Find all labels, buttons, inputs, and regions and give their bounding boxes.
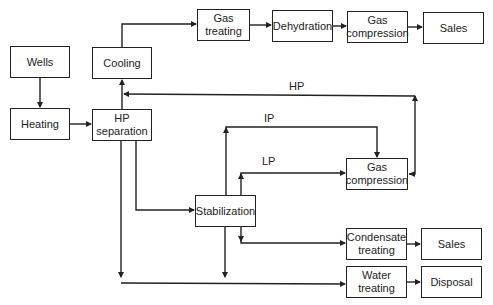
cooling-box: Cooling xyxy=(92,47,152,79)
process-flow-diagram: HP IP LP Wells Heating Cooling HP separa… xyxy=(0,0,493,305)
hp-separation-label-line1: HP xyxy=(114,112,129,125)
water-treating-label-line1: Water xyxy=(362,269,391,282)
hp-separation-label-line2: separation xyxy=(96,125,147,138)
gas-compression-top-box: Gas compression xyxy=(347,11,408,43)
water-treating-label-line2: treating xyxy=(358,282,395,295)
water-treating-box: Water treating xyxy=(346,266,407,298)
disposal-label: Disposal xyxy=(430,276,472,289)
heating-box: Heating xyxy=(10,108,70,140)
lp-line-label: LP xyxy=(262,155,275,167)
disposal-box: Disposal xyxy=(421,266,482,298)
sales-condensate-box: Sales xyxy=(421,228,482,260)
stabilization-label: Stabilization xyxy=(196,205,255,218)
condensate-treating-label-line2: treating xyxy=(358,244,395,257)
gas-compression-mid-label-line2: compression xyxy=(346,174,408,187)
dehydration-label: Dehydration xyxy=(273,20,332,33)
wells-label: Wells xyxy=(27,56,54,69)
gas-compression-mid-box: Gas compression xyxy=(346,158,408,190)
gas-compression-mid-label-line1: Gas xyxy=(367,161,387,174)
hp-separation-box: HP separation xyxy=(92,109,152,141)
gas-compression-top-label-line2: compression xyxy=(346,27,408,40)
ip-line-label: IP xyxy=(264,112,274,124)
hp-line-label: HP xyxy=(289,80,304,92)
connector-lines xyxy=(0,0,493,305)
gas-treating-label-line1: Gas xyxy=(213,12,233,25)
condensate-treating-label-line1: Condensate xyxy=(347,231,406,244)
stabilization-box: Stabilization xyxy=(195,195,256,227)
cooling-label: Cooling xyxy=(103,57,140,70)
sales-condensate-label: Sales xyxy=(438,238,466,251)
gas-treating-box: Gas treating xyxy=(197,9,250,41)
condensate-treating-box: Condensate treating xyxy=(346,228,407,260)
gas-compression-top-label-line1: Gas xyxy=(367,14,387,27)
dehydration-box: Dehydration xyxy=(272,10,333,42)
wells-box: Wells xyxy=(10,46,70,78)
gas-treating-label-line2: treating xyxy=(205,25,242,38)
sales-gas-box: Sales xyxy=(423,12,484,44)
heating-label: Heating xyxy=(21,118,59,131)
sales-gas-label: Sales xyxy=(440,22,468,35)
